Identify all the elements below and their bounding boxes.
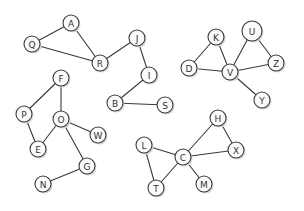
- node-label: L: [141, 141, 146, 151]
- node-label: O: [57, 115, 64, 125]
- node-label: X: [233, 146, 239, 156]
- graph-edges: [24, 23, 276, 188]
- node-label: V: [227, 68, 234, 78]
- node-i: I: [141, 67, 159, 85]
- node-label: E: [35, 145, 41, 155]
- node-label: M: [200, 180, 208, 190]
- node-label: P: [21, 110, 27, 120]
- node-q: Q: [24, 36, 42, 54]
- node-n: N: [35, 176, 53, 194]
- node-v: V: [222, 64, 240, 82]
- node-m: M: [196, 176, 214, 194]
- node-w: W: [90, 127, 108, 145]
- node-e: E: [30, 141, 48, 159]
- node-y: Y: [254, 92, 272, 110]
- node-label: F: [58, 74, 63, 84]
- node-s: S: [157, 97, 175, 115]
- node-label: A: [68, 19, 75, 29]
- node-label: C: [180, 153, 186, 163]
- node-a: A: [63, 15, 81, 33]
- node-label: U: [249, 27, 256, 37]
- node-label: G: [84, 162, 91, 172]
- node-label: S: [162, 101, 168, 111]
- node-label: B: [112, 99, 118, 109]
- node-r: R: [92, 55, 110, 73]
- node-h: H: [210, 110, 228, 128]
- node-l: L: [136, 137, 154, 155]
- node-label: Y: [258, 96, 265, 106]
- node-label: W: [94, 131, 103, 141]
- node-label: Z: [273, 59, 279, 69]
- node-u: U: [242, 21, 264, 43]
- node-label: H: [215, 114, 222, 124]
- node-p: P: [16, 106, 34, 124]
- node-label: I: [148, 71, 151, 81]
- node-label: N: [40, 180, 47, 190]
- node-label: R: [97, 59, 103, 69]
- node-g: G: [79, 158, 97, 176]
- node-j: J: [129, 30, 147, 48]
- node-label: Q: [28, 40, 35, 50]
- graph-diagram: QARJIBSKDVUZYFPOWEGNLCHXTM: [0, 0, 304, 211]
- node-x: X: [228, 142, 246, 160]
- node-label: J: [135, 34, 139, 44]
- node-label: T: [152, 184, 159, 194]
- node-d: D: [181, 60, 199, 78]
- node-t: T: [148, 180, 166, 198]
- edge-q-r: [32, 44, 100, 63]
- node-z: Z: [268, 55, 286, 73]
- node-f: F: [53, 70, 71, 88]
- node-label: D: [186, 64, 193, 74]
